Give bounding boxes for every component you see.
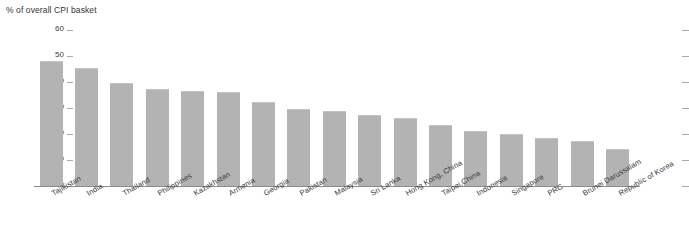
x-axis-label-slot: Philippines: [144, 188, 179, 250]
x-axis-label-slot: Thailand: [109, 188, 144, 250]
x-axis-label-slot: Brunei Darussalam: [569, 188, 604, 250]
x-axis-label-slot: Sri Lanka: [357, 188, 392, 250]
x-axis-label-slot: Hong Kong, China: [392, 188, 427, 250]
bar: [287, 109, 310, 186]
bar-series: [38, 30, 640, 186]
bar-slot: [392, 30, 427, 186]
x-axis-label-slot: Indonesia: [463, 188, 498, 250]
bar-slot: [357, 30, 392, 186]
bar-slot: [180, 30, 215, 186]
x-axis-label-slot: Tajikistan: [38, 188, 73, 250]
bar-slot: [286, 30, 321, 186]
y-axis-tick-mark-right: [682, 108, 689, 109]
bar-slot: [498, 30, 533, 186]
bar: [146, 89, 169, 187]
bar: [181, 91, 204, 186]
y-axis-tick-mark-right: [682, 56, 689, 57]
bar: [571, 141, 594, 187]
bar-slot: [73, 30, 108, 186]
x-axis-label-slot: India: [73, 188, 108, 250]
y-axis-tick-mark-right: [682, 186, 689, 187]
x-axis-label-slot: Taipei,China: [428, 188, 463, 250]
bar-slot: [534, 30, 569, 186]
x-axis-label-slot: Pakistan: [286, 188, 321, 250]
bar: [358, 115, 381, 187]
x-axis-labels: TajikistanIndiaThailandPhilippinesKazakh…: [38, 188, 640, 250]
x-axis-label-slot: Kazakhstan: [180, 188, 215, 250]
bar-slot: [144, 30, 179, 186]
bar-slot: [109, 30, 144, 186]
x-axis-label-slot: Georgia: [250, 188, 285, 250]
bar: [40, 61, 63, 186]
bar-slot: [38, 30, 73, 186]
bar-slot: [321, 30, 356, 186]
bar-slot: [250, 30, 285, 186]
y-axis-tick-mark-right: [682, 30, 689, 31]
y-axis-tick-mark-right: [682, 134, 689, 135]
x-axis-label-slot: PRC: [534, 188, 569, 250]
x-axis-label-slot: Malaysia: [321, 188, 356, 250]
bar: [323, 111, 346, 186]
x-axis-label-slot: Singapore: [498, 188, 533, 250]
bar: [252, 102, 275, 187]
chart-axis-title: % of overall CPI basket: [6, 5, 97, 15]
y-axis-tick-mark-right: [682, 82, 689, 83]
bar-slot: [463, 30, 498, 186]
bar: [75, 68, 98, 186]
bar-slot: [569, 30, 604, 186]
bar: [110, 83, 133, 186]
x-axis-label-slot: Republic of Korea: [605, 188, 640, 250]
bar-slot: [215, 30, 250, 186]
y-axis-tick-mark-right: [682, 160, 689, 161]
x-axis-label-slot: Armenia: [215, 188, 250, 250]
